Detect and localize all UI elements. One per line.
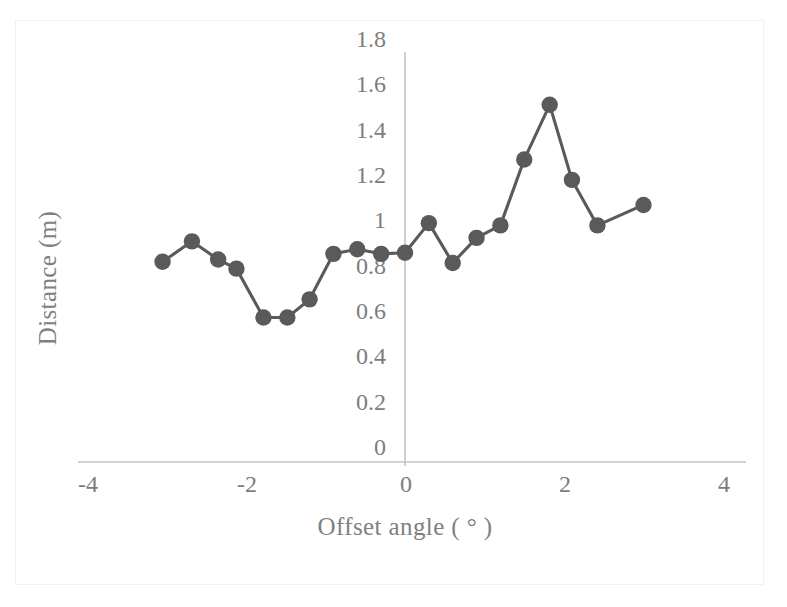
data-point [564, 172, 580, 188]
data-point [301, 291, 317, 307]
data-point [255, 309, 271, 325]
data-point [325, 246, 341, 262]
data-point [210, 251, 226, 267]
data-point [421, 215, 437, 231]
data-point [373, 246, 389, 262]
data-point [349, 241, 365, 257]
data-point [541, 97, 557, 113]
plot-area [0, 0, 787, 607]
data-point [492, 217, 508, 233]
data-point [445, 255, 461, 271]
chart-figure: Distance (m) Offset angle ( ° ) 0 0.2 0.… [0, 0, 787, 607]
data-point [279, 309, 295, 325]
series-line [163, 105, 644, 318]
data-point [228, 260, 244, 276]
data-point [184, 233, 200, 249]
data-point [589, 217, 605, 233]
series-markers [154, 97, 651, 326]
data-series-distance [154, 97, 651, 326]
data-point [635, 197, 651, 213]
data-point [468, 230, 484, 246]
data-point [516, 151, 532, 167]
data-point [397, 245, 413, 261]
data-point [154, 254, 170, 270]
